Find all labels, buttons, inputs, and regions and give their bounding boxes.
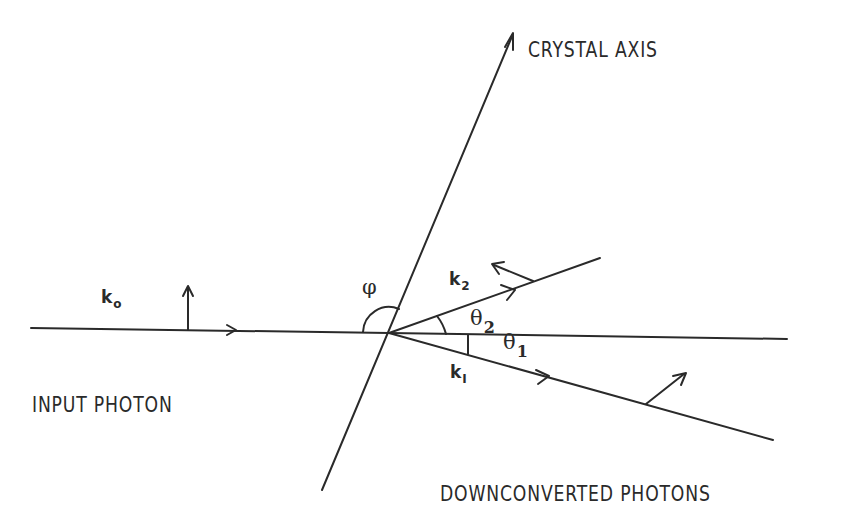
theta2-angle-arc: [437, 316, 446, 334]
phi-label: φ: [362, 275, 377, 299]
k0-symbol: k: [101, 287, 112, 307]
theta1-symbol: θ: [503, 330, 516, 354]
theta1-subscript: 1: [517, 342, 528, 361]
k2-polarization-arrow: [494, 265, 533, 281]
crystal-axis-line: [322, 34, 513, 490]
diagram-canvas: CRYSTAL AXIS INPUT PHOTON DOWNCONVERTED …: [0, 0, 847, 528]
k0-subscript: o: [113, 297, 121, 311]
k1-polarization-arrow: [646, 374, 684, 404]
theta2-subscript: 2: [484, 318, 495, 337]
theta1-label: θ1: [503, 330, 528, 354]
k1-direction-arrow-icon: [536, 370, 549, 384]
k0-label: ko: [101, 287, 122, 307]
input-photon-line: [31, 328, 389, 333]
downconverted-photons-label: DOWNCONVERTED PHOTONS: [440, 482, 711, 506]
k2-symbol: k: [449, 269, 460, 289]
k1-beam-line: [389, 333, 773, 440]
k2-label: k2: [449, 269, 470, 289]
k2-subscript: 2: [461, 279, 469, 293]
diagram-svg: [0, 0, 847, 528]
k1-subscript: I: [462, 372, 466, 386]
theta2-symbol: θ: [470, 306, 483, 330]
k1-symbol: k: [450, 362, 461, 382]
theta2-label: θ2: [470, 306, 495, 330]
horizontal-reference-line: [389, 333, 787, 339]
crystal-axis-arrowhead-icon: [505, 33, 513, 50]
k1-label: kI: [450, 362, 467, 382]
input-photon-label: INPUT PHOTON: [32, 393, 173, 417]
crystal-axis-label: CRYSTAL AXIS: [528, 38, 658, 62]
